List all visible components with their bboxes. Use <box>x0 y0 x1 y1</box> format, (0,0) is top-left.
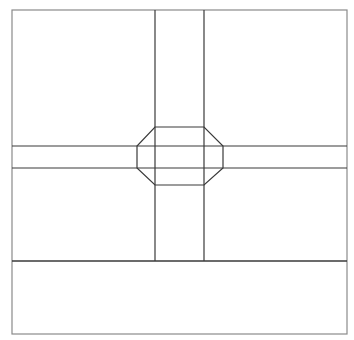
outer-frame <box>12 10 347 334</box>
central-octagon <box>137 127 223 185</box>
diagram-svg <box>0 0 354 340</box>
diagram-canvas <box>0 0 354 340</box>
